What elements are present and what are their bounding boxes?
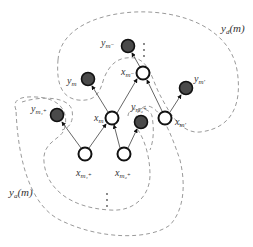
label-y-m: ym	[66, 75, 77, 88]
node-y-m	[82, 73, 95, 86]
tree-diagram: ym⁻ xm⁻ ym ym′ xm xm′ ym₁⁺ ym₂⁺ xm₁⁺ xm₂…	[0, 0, 253, 247]
label-y-m1-plus: ym₁⁺	[30, 103, 47, 116]
node-x-m-minus	[137, 67, 150, 80]
node-y-m2-plus	[135, 116, 148, 129]
node-y-m-prime	[180, 82, 193, 95]
label-y-m-prime: ym′	[193, 73, 206, 86]
edge-xm2plus-xm	[114, 125, 120, 148]
label-x-m1-plus: xm₁⁺	[75, 167, 92, 180]
label-y-m2-plus: ym₂⁺	[130, 101, 147, 114]
edge-xm-ym	[92, 86, 108, 112]
node-x-m2-plus	[118, 148, 131, 161]
ellipsis-bottom	[106, 193, 108, 207]
node-x-m1-plus	[79, 148, 92, 161]
edge-xmprime-ymprime	[170, 95, 181, 112]
edge-xmminus-ymminus	[132, 53, 140, 67]
edge-xm2plus-ym2plus	[128, 129, 137, 148]
ellipsis-top	[143, 43, 145, 57]
node-y-m-minus	[122, 40, 135, 53]
edge-xm1plus-ym1plus	[62, 122, 81, 148]
node-x-m	[106, 112, 119, 125]
label-y-m-minus: ym⁻	[100, 37, 115, 50]
edge-xm1plus-xm	[89, 124, 106, 148]
label-x-m2-plus: xm₂⁺	[114, 167, 131, 180]
node-x-m-prime	[159, 112, 172, 125]
label-x-m: xm	[93, 112, 104, 125]
label-descendants-region: yd(m)	[220, 22, 245, 36]
label-x-m-minus: xm⁻	[120, 66, 135, 79]
node-y-m1-plus	[51, 109, 64, 122]
label-x-m-prime: xm′	[174, 116, 187, 129]
label-ancestors-region: ya(m)	[8, 186, 33, 200]
